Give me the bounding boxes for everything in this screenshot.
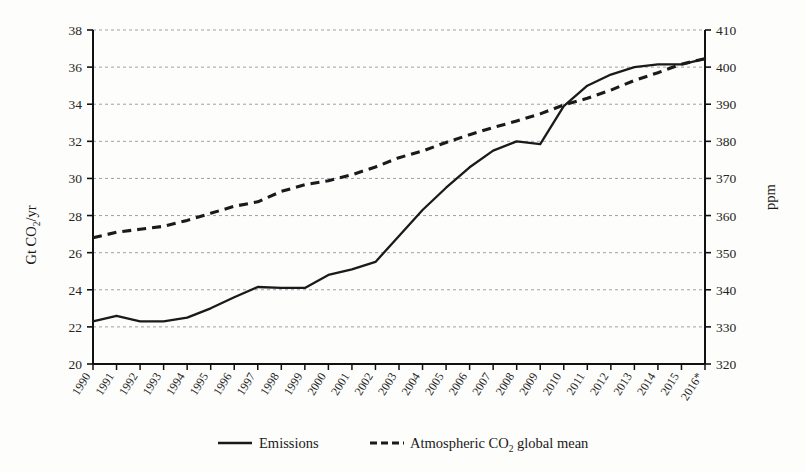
left-axis-tick-label: 20 [69, 357, 83, 372]
left-axis-title-post: /yr [23, 205, 39, 221]
chart-background [0, 0, 805, 472]
legend-label-co2-pre: Atmospheric CO [410, 435, 509, 451]
left-axis-tick-label: 38 [69, 23, 83, 38]
right-axis-tick-label: 320 [716, 357, 737, 372]
left-axis-title-pre: Gt CO [23, 226, 39, 264]
left-axis-tick-label: 30 [69, 171, 83, 186]
right-axis-tick-label: 400 [716, 60, 737, 75]
right-axis-tick-label: 390 [716, 97, 737, 112]
left-axis-tick-label: 36 [69, 60, 83, 75]
chart-figure: 20222426283032343638 3203303403503603703… [0, 0, 805, 472]
right-axis-tick-label: 380 [716, 134, 737, 149]
right-axis-tick-label: 410 [716, 23, 737, 38]
legend-label-emissions: Emissions [259, 435, 319, 451]
legend-label-co2-post: global mean [513, 435, 589, 451]
left-axis-tick-label: 34 [69, 97, 83, 112]
left-axis-tick-label: 22 [69, 320, 83, 335]
left-axis-tick-label: 28 [69, 209, 83, 224]
left-axis-tick-label: 26 [69, 246, 83, 261]
right-axis-title-text: ppm [762, 183, 778, 210]
right-axis-title: ppm [762, 183, 778, 210]
right-axis-tick-label: 360 [716, 209, 737, 224]
right-axis-tick-label: 370 [716, 171, 737, 186]
right-axis-tick-label: 340 [716, 283, 737, 298]
left-axis-tick-label: 24 [69, 283, 83, 298]
right-axis-tick-label: 330 [716, 320, 737, 335]
emissions-co2-line-chart: 20222426283032343638 3203303403503603703… [0, 0, 805, 472]
left-axis-tick-label: 32 [69, 134, 83, 149]
right-axis-tick-label: 350 [716, 246, 737, 261]
